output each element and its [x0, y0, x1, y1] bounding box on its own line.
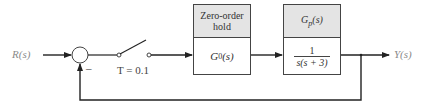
plant-fraction: 1 s(s + 3) — [294, 45, 329, 68]
plant-transfer-function: 1 s(s + 3) — [284, 38, 340, 74]
zoh-g: G — [210, 50, 218, 62]
plant-numerator: 1 — [307, 45, 316, 56]
input-label: R(s) — [12, 48, 30, 60]
plant-arg: (s) — [312, 14, 323, 25]
plant-denominator: s(s + 3) — [294, 56, 329, 68]
output-label: Y(s) — [394, 48, 412, 60]
plant-block: Gp(s) 1 s(s + 3) — [283, 4, 341, 75]
sampler-period-label: T = 0.1 — [117, 64, 149, 76]
feedback-sign: – — [86, 62, 92, 74]
zoh-transfer-function: G0(s) — [194, 38, 250, 74]
zero-order-hold-block: Zero-order hold G0(s) — [193, 4, 251, 75]
switch-contact-right — [147, 53, 151, 57]
plant-header: Gp(s) — [284, 5, 340, 38]
zoh-arg: (s) — [222, 50, 234, 62]
sampler-switch-blade — [120, 40, 146, 54]
sampler-label: T = 0.1 — [117, 64, 149, 76]
zoh-header-line2: hold — [200, 21, 243, 32]
summing-junction — [72, 47, 88, 63]
zoh-header-line1: Zero-order — [200, 10, 243, 21]
zoh-header: Zero-order hold — [194, 5, 250, 38]
